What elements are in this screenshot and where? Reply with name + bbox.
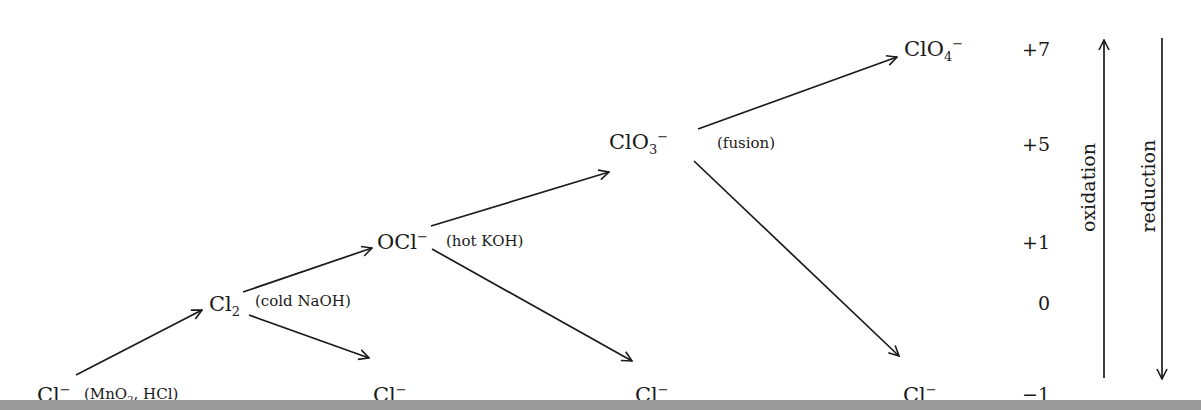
species-cl2: Cl2 (209, 294, 240, 315)
species-charge: − (658, 382, 669, 397)
species-clo4: ClO4− (904, 39, 963, 60)
arrow-cl-to-cl2 (76, 310, 202, 375)
arrow-cl2-to-cl (249, 315, 369, 358)
species-charge: − (60, 382, 71, 397)
species-clo3: ClO3− (609, 132, 668, 153)
oxidation-state-plus1: +1 (1010, 233, 1050, 252)
species-charge: − (417, 229, 428, 244)
arrow-ocl-to-cl (432, 249, 632, 361)
species-subscript: 3 (649, 142, 657, 157)
reduction-label: reduction (1139, 143, 1158, 233)
species-subscript: 2 (232, 304, 240, 319)
oxidation-state-plus5: +5 (1010, 135, 1050, 154)
arrow-ocl-to-clo3 (431, 172, 609, 226)
condition-fusion: (fusion) (717, 136, 775, 151)
condition-cold-naoh: (cold NaOH) (255, 294, 351, 309)
arrow-cl2-to-ocl (243, 248, 372, 292)
arrow-clo3-to-clo4 (698, 57, 897, 129)
arrow-clo3-to-cl (694, 161, 899, 356)
species-ocl: OCl− (377, 232, 428, 253)
species-subscript: 4 (944, 49, 952, 64)
species-charge: − (657, 129, 668, 144)
species-base: ClO (904, 37, 944, 61)
species-charge: − (952, 36, 963, 51)
species-charge: − (396, 382, 407, 397)
species-base: Cl (209, 292, 232, 316)
oxidation-label: oxidation (1079, 143, 1098, 233)
condition-hot-koh: (hot KOH) (446, 234, 523, 249)
arrow-layer (0, 0, 1201, 410)
species-base: ClO (609, 130, 649, 154)
bottom-gray-band (0, 400, 1201, 410)
species-base: OCl (377, 230, 417, 254)
oxidation-state-zero: 0 (1010, 294, 1050, 313)
oxidation-state-plus7: +7 (1010, 40, 1050, 59)
oxidation-state-diagram: Cl− (MnO2, HCl) Cl2 (cold NaOH) Cl− OCl−… (0, 0, 1201, 410)
species-charge: − (926, 382, 937, 397)
